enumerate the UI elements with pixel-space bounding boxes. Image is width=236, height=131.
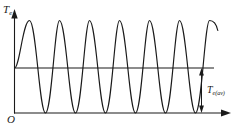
torque-waveform-curve [15,21,218,114]
figure-canvas [0,0,236,131]
average-torque-dimension-arrow [199,68,204,113]
origin-label: O [7,114,15,125]
average-torque-label-subscript: e(av) [213,89,225,96]
x-axis-arrowhead [221,110,231,117]
torque-waveform-figure: Te O Te(av) [0,0,236,131]
y-axis-label: Te [3,4,12,17]
y-axis-arrowhead [11,9,17,19]
average-torque-label: Te(av) [207,85,225,96]
dimension-arrowhead-bottom [199,106,204,114]
y-axis-label-subscript: e [9,9,12,16]
y-axis [11,9,17,113]
